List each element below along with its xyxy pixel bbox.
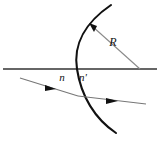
optics-diagram-figure: n n' R — [0, 0, 160, 141]
label-radius: R — [108, 35, 117, 49]
optics-diagram-canvas: n n' R — [0, 0, 160, 141]
label-index-before: n — [59, 71, 65, 83]
label-index-after: n' — [79, 71, 88, 83]
